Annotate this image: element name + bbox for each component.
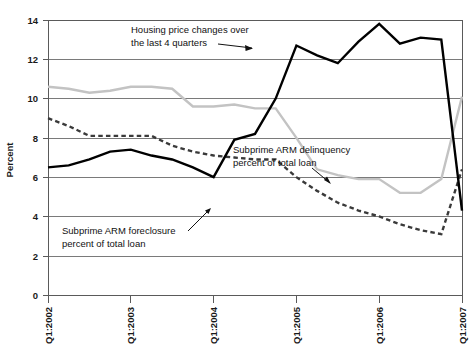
delinquency-annotation-line2: percent of total loan [233,157,316,168]
y-tick-label-0: 0 [33,290,38,301]
x-tick-label-2006: Q1:2006 [374,307,385,344]
foreclosure-annotation-line1: Subprime ARM foreclosure [62,225,176,236]
y-tick-label-14: 14 [27,15,38,26]
housing-price-annotation-line2: the last 4 quarters [131,37,207,48]
y-tick-label-8: 8 [33,133,38,144]
y-tick-label-10: 10 [27,93,38,104]
y-axis-title: Percent [4,142,15,178]
y-tick-label-12: 12 [27,54,38,65]
x-tick-label-2007: Q1:2007 [457,307,468,344]
x-tick-label-2002: Q1:2002 [43,307,54,344]
chart-background [0,0,475,359]
x-tick-label-2003: Q1:2003 [125,307,136,344]
chart-container: 14 12 10 8 6 4 2 0 Percent Q1:2002 Q1:20… [0,0,475,359]
delinquency-annotation-line1: Subprime ARM delinquency [233,144,350,155]
x-tick-label-2004: Q1:2004 [208,306,219,344]
y-tick-label-6: 6 [33,172,38,183]
y-tick-label-4: 4 [33,211,39,222]
y-tick-label-2: 2 [33,251,38,262]
foreclosure-annotation-line2: percent of total loan [62,238,145,249]
housing-price-annotation-line1: Housing price changes over [131,24,249,35]
line-chart: 14 12 10 8 6 4 2 0 Percent Q1:2002 Q1:20… [0,0,475,359]
x-tick-label-2005: Q1:2005 [291,306,302,344]
